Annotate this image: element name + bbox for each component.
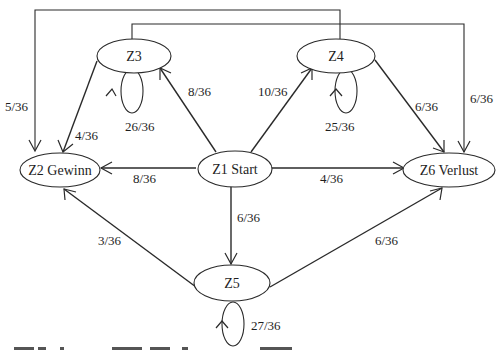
edge-label-z3-z2: 4/36 bbox=[75, 128, 99, 143]
self-loop-z4 bbox=[330, 69, 357, 113]
edge-label-z1-z3: 8/36 bbox=[188, 84, 212, 99]
self-loop-z3 bbox=[106, 69, 143, 113]
edge-z3-z6 bbox=[132, 24, 470, 152]
edge-label-z5-z2: 3/36 bbox=[98, 233, 122, 248]
edge-label-z1-z4: 10/36 bbox=[258, 84, 288, 99]
self-loop-z5 bbox=[216, 302, 244, 346]
node-label: Z1 Start bbox=[212, 162, 258, 177]
node-label: Z4 bbox=[328, 49, 344, 64]
node-label: Z5 bbox=[224, 276, 240, 291]
edge-label-z3-z6: 6/36 bbox=[470, 91, 494, 106]
edge-z1-z3 bbox=[160, 68, 216, 152]
edge-label-z4-loop: 25/36 bbox=[325, 119, 355, 134]
edge-label-z1-z5: 6/36 bbox=[237, 210, 261, 225]
edge-z1-z5 bbox=[225, 186, 237, 264]
edge-z1-z4 bbox=[251, 68, 312, 152]
node-z4: Z4 bbox=[297, 39, 375, 73]
state-diagram: Z3 Z4 Z2 Gewinn Z1 Start Z6 Verlust Z5 5… bbox=[0, 0, 504, 350]
node-label: Z2 Gewinn bbox=[28, 163, 91, 178]
edge-z5-z2 bbox=[64, 189, 196, 287]
edge-label-z1-z2: 8/36 bbox=[133, 171, 157, 186]
node-z1: Z1 Start bbox=[198, 151, 272, 187]
edge-label-z5-z6: 6/36 bbox=[375, 233, 399, 248]
node-label: Z6 Verlust bbox=[420, 163, 479, 178]
node-z3: Z3 bbox=[97, 39, 171, 73]
edge-label-z4-z2: 5/36 bbox=[5, 99, 29, 114]
edge-label-z4-z6: 6/36 bbox=[415, 99, 439, 114]
edge-label-z1-z6: 4/36 bbox=[320, 171, 344, 186]
edge-label-z3-loop: 26/36 bbox=[125, 119, 155, 134]
edge-label-z5-loop: 27/36 bbox=[251, 318, 281, 333]
node-label: Z3 bbox=[126, 49, 142, 64]
node-z6: Z6 Verlust bbox=[403, 153, 495, 187]
edge-z5-z6 bbox=[270, 188, 442, 287]
node-z2: Z2 Gewinn bbox=[20, 153, 100, 187]
node-z5: Z5 bbox=[194, 265, 270, 301]
